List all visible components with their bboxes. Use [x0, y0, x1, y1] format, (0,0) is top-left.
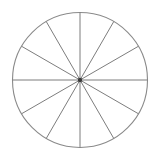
fraction-circle-figure: [0, 0, 159, 157]
circle-sectors-diagram: [0, 0, 159, 157]
center-point-dot: [78, 78, 82, 82]
